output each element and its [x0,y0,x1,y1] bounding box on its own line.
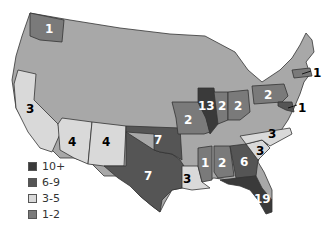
label-maryland: 1 [298,101,306,115]
state-massachusetts [292,68,312,78]
legend-item-3-5: 3-5 [28,190,65,206]
legend-swatch [28,210,37,219]
legend-item-6-9: 6-9 [28,174,65,190]
label-alabama: 2 [218,156,226,170]
legend-label: 10+ [42,160,65,173]
legend: 10+ 6-9 3-5 1-2 [28,158,65,222]
label-california: 3 [26,102,34,116]
label-oklahoma: 7 [154,133,162,147]
label-mississippi: 1 [201,156,209,170]
legend-swatch [28,178,37,187]
label-new-mexico: 4 [102,135,110,149]
label-south-carolina: 3 [256,144,264,158]
label-georgia: 6 [240,155,248,169]
label-massachusetts: 1 [313,66,321,80]
label-illinois: 13 [198,99,215,113]
label-pennsylvania: 2 [264,88,272,102]
legend-item-1-2: 1-2 [28,206,65,222]
legend-swatch [28,162,37,171]
label-indiana: 2 [218,99,226,113]
legend-swatch [28,194,37,203]
legend-label: 3-5 [42,192,60,205]
label-missouri: 2 [184,113,192,127]
label-north-carolina: 3 [268,127,276,141]
label-louisiana: 3 [183,172,191,186]
legend-item-10-plus: 10+ [28,158,65,174]
legend-label: 1-2 [42,208,60,221]
legend-label: 6-9 [42,176,60,189]
label-washington: 1 [45,22,53,36]
label-texas: 7 [144,169,152,183]
label-florida: 19 [254,192,271,206]
label-arizona: 4 [68,135,76,149]
label-ohio: 2 [234,99,242,113]
